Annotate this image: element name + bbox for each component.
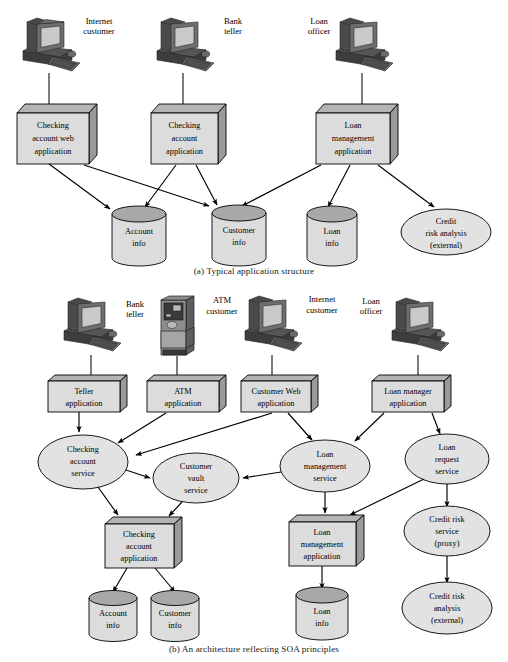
svg-text:application: application [66,399,104,408]
soa-architecture-diagram: Internet customer Bank teller [0,0,508,662]
b-app-loan-manager[interactable]: Loan manager application [372,375,451,412]
b-app-customer-web[interactable]: Customer Web application [241,375,318,412]
b-svc-credit-risk[interactable]: Credit risk service (proxy) [404,506,490,556]
svg-text:Loan: Loan [323,227,341,236]
b-edge-web-to-loanmgmt [288,413,312,440]
svg-text:application: application [390,399,428,408]
b-actor-internet-label: Internet [309,294,336,304]
svg-text:Loan manager: Loan manager [384,387,432,396]
svg-text:info: info [325,239,338,248]
b-bapp-checking[interactable]: Checking account application [105,517,182,568]
b-actor-officer-label: Loan [362,296,380,306]
svg-text:info: info [106,621,119,630]
svg-text:management: management [304,462,347,471]
b-edge-atm-to-checking [118,413,166,443]
svg-text:teller: teller [224,26,242,36]
svg-text:account: account [70,457,96,466]
svg-text:request: request [435,455,460,464]
a-edge-web-to-customer [84,165,209,206]
a-actor-officer[interactable]: Loan officer [308,16,393,71]
b-actor-internet[interactable]: Internet customer [245,294,338,351]
a-ext-credit-risk[interactable]: Credit risk analysis (external) [401,209,491,255]
workstation-icon [23,18,80,71]
workstation-icon [392,298,449,351]
a-app-checking[interactable]: Checking account application [151,104,226,164]
b-app-atm[interactable]: ATM application [147,375,226,412]
b-edge-checking-to-vault [126,470,150,478]
svg-text:customer: customer [306,305,338,315]
b-actor-atm-label: ATM [213,295,232,305]
a-edge-loan-to-credit [378,165,434,207]
a-db-loan[interactable]: Loan info [307,206,357,266]
svg-text:customer: customer [206,306,238,316]
b-actor-officer[interactable]: Loan officer [360,296,449,351]
svg-text:management: management [332,134,375,143]
b-db-loan[interactable]: Loan info [296,587,348,640]
svg-text:service: service [184,486,208,495]
svg-text:Loan: Loan [438,443,456,452]
svg-text:vault: vault [188,474,205,483]
svg-text:info: info [132,239,145,248]
svg-text:application: application [335,147,373,156]
b-edge-loanreq-to-bapp [350,479,424,515]
svg-text:Checking: Checking [169,121,201,130]
svg-text:info: info [315,619,328,628]
svg-text:Checking: Checking [37,121,69,130]
workstation-icon [336,18,393,71]
svg-text:teller: teller [126,309,144,319]
svg-text:service: service [435,527,459,536]
b-edge-checking-to-bapp [98,487,118,515]
svg-text:Checking: Checking [123,530,155,539]
a-db-account[interactable]: Account info [112,206,166,266]
svg-text:management: management [301,540,344,549]
a-actor-teller-label: Bank [224,16,243,26]
svg-text:application: application [165,399,203,408]
a-app-loan-management[interactable]: Loan management application [316,104,398,164]
b-actor-teller[interactable]: Bank teller [64,298,145,351]
svg-text:info: info [232,238,245,247]
svg-text:Loan: Loan [313,528,331,537]
svg-text:(external): (external) [430,241,462,250]
workstation-icon [157,18,214,71]
figure-caption-a: (a) Typical application structure [0,266,508,276]
svg-text:Account: Account [125,227,154,236]
svg-text:officer: officer [308,26,331,36]
b-edge-vault-to-bapp [169,502,182,516]
a-actor-teller[interactable]: Bank teller [157,16,243,71]
workstation-icon [64,298,121,351]
b-ext-credit-risk[interactable]: Credit risk analysis (external) [402,582,492,634]
a-app-checking-web[interactable]: Checking account web application [17,104,97,164]
svg-text:application: application [35,147,73,156]
b-edge-bappchecking-to-customer [155,568,175,592]
svg-text:Customer: Customer [223,226,256,235]
b-db-customer[interactable]: Customer info [151,591,199,642]
workstation-icon [245,296,302,351]
svg-text:Teller: Teller [74,387,93,396]
figure-canvas: Internet customer Bank teller [0,0,508,662]
svg-text:account: account [126,542,152,551]
b-app-teller[interactable]: Teller application [48,375,127,412]
a-actor-internet-label: Internet [86,16,113,26]
svg-text:customer: customer [83,26,115,36]
svg-text:Checking: Checking [67,445,99,454]
svg-text:account web: account web [32,134,74,143]
b-svc-customer-vault[interactable]: Customer vault service [153,453,239,503]
a-db-customer[interactable]: Customer info [212,205,266,266]
a-edge-loan-to-loaninfo [328,165,350,207]
a-edge-loan-to-customer [242,165,321,206]
a-actor-internet[interactable]: Internet customer [23,16,115,71]
svg-text:Customer: Customer [159,609,192,618]
svg-text:application: application [304,552,342,561]
b-actor-atm[interactable]: ATM customer [161,295,238,355]
b-edge-loanmgr-to-loanreq [432,413,440,434]
b-svc-checking[interactable]: Checking account service [38,435,128,489]
svg-text:Loan: Loan [313,607,331,616]
svg-text:Credit: Credit [436,217,457,226]
b-bapp-loan[interactable]: Loan management application [289,515,364,566]
b-db-account[interactable]: Account info [89,591,137,642]
svg-text:Account: Account [99,609,128,618]
b-svc-loan-request[interactable]: Loan request service [405,434,489,484]
svg-text:Customer: Customer [180,462,213,471]
svg-text:ATM: ATM [174,387,192,396]
b-svc-loan-mgmt[interactable]: Loan management service [280,440,370,492]
